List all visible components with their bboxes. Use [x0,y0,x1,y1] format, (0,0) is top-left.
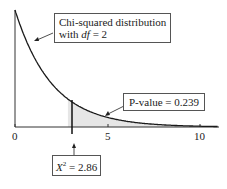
stat-value: = 2.86 [66,161,97,173]
pvalue-arrow [108,106,124,114]
pvalue-label-box: P-value = 0.239 [123,93,205,111]
df-symbol: df [81,28,90,40]
stat-symbol: X [56,161,63,173]
tick-label-10: 10 [194,130,205,142]
stat-arrow-head [72,143,76,148]
tick-label-5: 5 [105,130,111,142]
pvalue-label: P-value = 0.239 [129,96,199,108]
curve-arrow-head [34,37,39,41]
curve-arrow [37,33,53,40]
curve-label-line1: Chi-squared distribution [59,16,166,28]
curve-label-line2: with df = 2 [59,28,166,40]
tick-label-0: 0 [12,130,18,142]
pvalue-arrow-head [105,111,110,116]
curve-label-box: Chi-squared distribution with df = 2 [54,13,171,43]
statistic-label-box: X2 = 2.86 [52,155,101,176]
